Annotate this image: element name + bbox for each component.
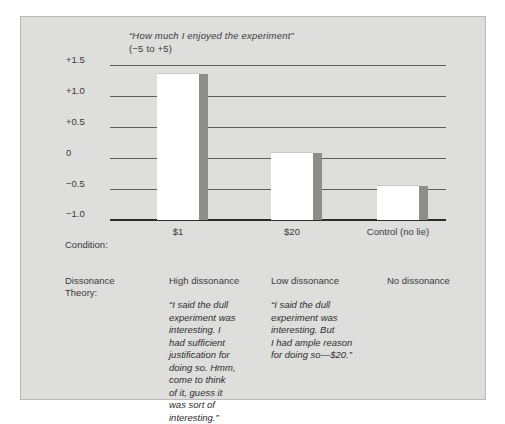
xtick-label-control: Control (no lie) (338, 226, 458, 238)
bar-control[interactable] (377, 185, 419, 220)
plot-area: +1.5 +1.0 +0.5 0 −0.5 −1.0 $1 $20 (110, 65, 446, 220)
theory-column-no-dissonance: No dissonance (387, 275, 487, 299)
theory-heading-low: Low dissonance (271, 275, 371, 287)
ytick-label-0.5: +0.5 (66, 116, 106, 127)
chart-subtitle: (−5 to +5) (129, 42, 429, 55)
dissonance-theory-row-label: Dissonance Theory: (65, 275, 115, 299)
theory-column-low-dissonance: Low dissonance “I said the dull experime… (271, 275, 371, 362)
theory-quote-low: “I said the dull experiment was interest… (271, 299, 371, 362)
xtick-label-dollar20: $20 (232, 226, 352, 238)
bar-dollar20[interactable] (271, 152, 313, 220)
figure-panel: “How much I enjoyed the experiment” (−5 … (20, 16, 486, 400)
bar-group-dollar1[interactable]: $1 (157, 65, 199, 220)
ytick-label-0: 0 (66, 147, 106, 158)
xtick-label-dollar1: $1 (118, 226, 238, 238)
theory-heading-high: High dissonance (169, 275, 255, 287)
ytick-label-neg0.5: −0.5 (66, 178, 106, 189)
bar-group-dollar20[interactable]: $20 (271, 65, 313, 220)
chart-title-block: “How much I enjoyed the experiment” (−5 … (129, 29, 429, 55)
theory-column-high-dissonance: High dissonance “I said the dull experim… (169, 275, 255, 424)
ytick-label-1.5: +1.5 (66, 54, 106, 65)
condition-row-label: Condition: (65, 239, 108, 251)
bar-shadow-dollar20 (313, 153, 322, 220)
bar-group-control[interactable]: Control (no lie) (377, 65, 419, 220)
theory-heading-none: No dissonance (387, 275, 487, 287)
bar-shadow-control (419, 186, 428, 220)
bar-dollar1[interactable] (157, 73, 199, 220)
ytick-label-neg1.0: −1.0 (66, 208, 106, 219)
bar-shadow-dollar1 (199, 74, 208, 220)
ytick-label-1.0: +1.0 (66, 85, 106, 96)
theory-quote-high: “I said the dull experiment was interest… (169, 299, 255, 424)
chart-title: “How much I enjoyed the experiment” (129, 29, 429, 42)
